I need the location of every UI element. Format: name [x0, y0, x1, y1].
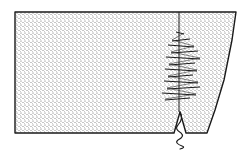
illustration-stage: Stippled fabric piece with a vertical se…	[0, 0, 245, 155]
fabric-fill	[15, 12, 236, 133]
fabric-piece	[15, 12, 236, 133]
seam-illustration	[0, 0, 245, 155]
